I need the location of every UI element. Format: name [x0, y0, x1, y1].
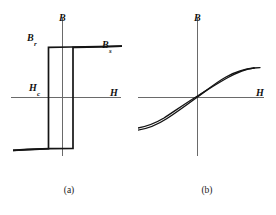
panel-a-b-axis-label: B — [59, 13, 66, 23]
panel-b: B H (b) — [138, 0, 276, 215]
panel-a-remanence-label: Br — [27, 33, 36, 46]
panel-b-b-axis-label: B — [194, 13, 201, 23]
saturation-subscript: s — [109, 47, 112, 55]
panel-b-h-axis-label: H — [256, 88, 264, 98]
coercivity-symbol: H — [29, 82, 37, 93]
remanence-subscript: r — [34, 40, 37, 48]
saturation-symbol: B — [102, 39, 109, 50]
panel-a-saturation-label: Bs — [102, 40, 111, 53]
panel-b-plot — [138, 0, 276, 215]
panel-a-coercivity-label: Hc — [29, 83, 40, 96]
panel-a: B H Br Bs Hc (a) — [0, 0, 138, 215]
panel-b-loop-branch-lower — [138, 68, 254, 131]
panel-a-loop-branch-descending — [13, 46, 122, 150]
coercivity-subscript: c — [37, 90, 40, 98]
panel-a-h-axis-label: H — [110, 88, 118, 98]
remanence-symbol: B — [27, 32, 34, 43]
panel-a-plot — [0, 0, 138, 215]
hysteresis-figure: B H Br Bs Hc (a) B H (b) — [0, 0, 276, 215]
panel-a-caption: (a) — [0, 186, 138, 196]
panel-b-caption: (b) — [138, 186, 276, 196]
panel-a-loop-branch-ascending — [13, 46, 122, 150]
